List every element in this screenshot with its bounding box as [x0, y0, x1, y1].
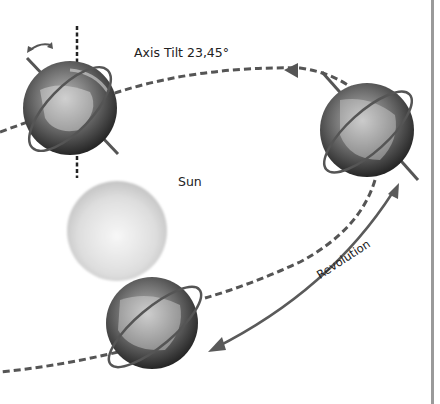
revolution-arrow — [215, 192, 393, 348]
diagram-canvas — [0, 0, 440, 404]
revolution-arrowhead-start — [208, 337, 226, 352]
earth-bottom — [98, 275, 211, 379]
sun-label: Sun — [178, 174, 202, 189]
orbit-path-right — [205, 180, 375, 298]
frame-divider — [431, 0, 434, 404]
orbit-direction-arrow — [284, 63, 298, 78]
axis-tilt-label: Axis Tilt 23,45° — [134, 45, 229, 60]
earth-right — [313, 72, 423, 184]
earth-top-left — [17, 42, 124, 163]
orbit-path-bottom — [0, 352, 118, 372]
sun — [67, 181, 167, 281]
orbit-diagram: Axis Tilt 23,45° Sun Revolution — [0, 0, 440, 404]
